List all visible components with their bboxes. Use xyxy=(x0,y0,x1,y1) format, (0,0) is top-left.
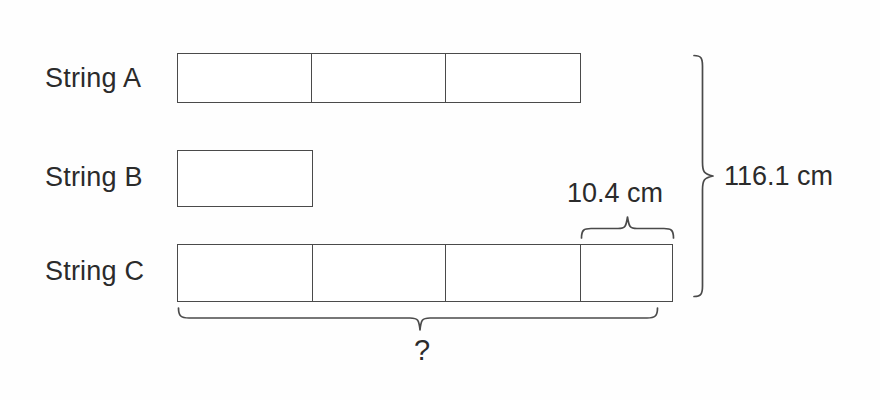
row-label-string-a: String A xyxy=(45,63,141,94)
bar-segment xyxy=(446,54,580,102)
bar-segment xyxy=(178,245,313,301)
unit-brace-icon xyxy=(580,215,676,239)
bar-string-c xyxy=(177,244,673,302)
bar-segment xyxy=(446,245,581,301)
diagram-canvas: String A String B String C 10.4 cm 116.1… xyxy=(0,0,880,400)
row-label-string-b: String B xyxy=(45,162,143,193)
row-label-string-c: String C xyxy=(45,256,144,287)
total-brace-icon xyxy=(692,54,718,298)
unknown-brace-icon xyxy=(177,307,659,333)
bar-segment xyxy=(581,245,672,301)
unknown-measure-label: ? xyxy=(414,334,430,367)
bar-string-a xyxy=(177,53,581,103)
bar-segment xyxy=(313,245,445,301)
bar-segment xyxy=(312,54,446,102)
bar-segment xyxy=(178,151,312,206)
total-measure-label: 116.1 cm xyxy=(724,161,833,192)
bar-string-b xyxy=(177,150,313,207)
bar-segment xyxy=(178,54,312,102)
unit-measure-label: 10.4 cm xyxy=(567,178,663,209)
